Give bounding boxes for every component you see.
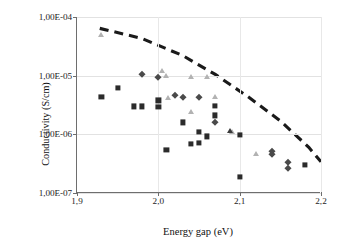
data-point-square bbox=[115, 86, 120, 91]
y-tick-label: 1,00E-05 bbox=[39, 71, 72, 81]
y-axis-title: Conductivity (S/cm) bbox=[40, 82, 51, 165]
data-point-square bbox=[196, 140, 201, 145]
plot-area: 1,00E-071,00E-061,00E-051,00E-041,92,02,… bbox=[76, 17, 320, 193]
y-gridline bbox=[77, 193, 321, 194]
data-point-square bbox=[99, 94, 104, 99]
data-point-triangle bbox=[98, 32, 104, 37]
data-point-square bbox=[237, 132, 242, 137]
data-point-square bbox=[164, 147, 169, 152]
data-point-square bbox=[213, 103, 218, 108]
data-point-square bbox=[205, 134, 210, 139]
data-point-triangle bbox=[212, 94, 218, 99]
data-point-triangle bbox=[253, 151, 259, 156]
y-tick-mark bbox=[73, 17, 77, 18]
data-point-triangle-dark bbox=[227, 128, 233, 133]
data-point-triangle bbox=[188, 109, 194, 114]
data-point-square bbox=[213, 113, 218, 118]
conductivity-vs-energy-gap-chart: Conductivity (S/cm) Energy gap (eV) 1,00… bbox=[0, 0, 342, 248]
y-tick-label: 1,00E-07 bbox=[39, 188, 72, 198]
x-tick-label: 2,0 bbox=[153, 196, 164, 206]
x-tick-label: 2,2 bbox=[315, 196, 326, 206]
data-point-triangle bbox=[204, 74, 210, 79]
data-point-square bbox=[180, 120, 185, 125]
y-tick-label: 1,00E-06 bbox=[39, 129, 72, 139]
data-point-square bbox=[302, 162, 307, 167]
x-gridline bbox=[240, 17, 241, 193]
x-tick-label: 2,1 bbox=[234, 196, 245, 206]
data-point-square bbox=[196, 129, 201, 134]
x-axis-title: Energy gap (eV) bbox=[76, 226, 320, 237]
x-gridline bbox=[321, 17, 322, 193]
data-point-triangle bbox=[165, 95, 171, 100]
data-point-triangle bbox=[188, 74, 194, 79]
y-tick-label: 1,00E-04 bbox=[39, 12, 72, 22]
y-gridline bbox=[77, 17, 321, 18]
data-point-square bbox=[139, 104, 144, 109]
x-tick-label: 1,9 bbox=[71, 196, 82, 206]
data-point-triangle bbox=[163, 73, 169, 78]
data-point-square bbox=[131, 104, 136, 109]
data-point-square bbox=[188, 142, 193, 147]
data-point-square bbox=[237, 174, 242, 179]
data-point-square bbox=[156, 105, 161, 110]
data-point-square bbox=[156, 98, 161, 103]
y-tick-mark bbox=[73, 134, 77, 135]
y-tick-mark bbox=[73, 76, 77, 77]
y-gridline bbox=[77, 76, 321, 77]
